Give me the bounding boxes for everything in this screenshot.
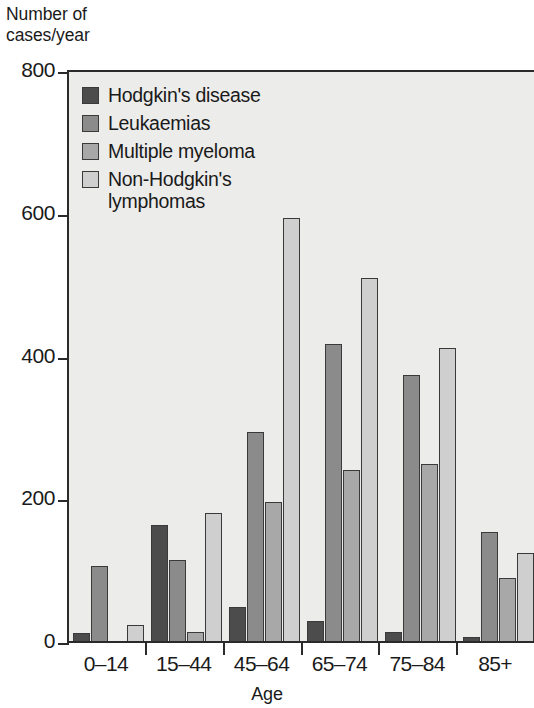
y-tick-label: 600: [21, 200, 55, 224]
legend-item: Hodgkin's disease: [82, 84, 261, 106]
y-axis-tick: [58, 358, 69, 360]
y-tick-label: 0: [44, 629, 55, 653]
bar: [205, 513, 222, 641]
bar: [403, 375, 420, 641]
x-tick-label: 45–64: [223, 652, 301, 676]
bar: [343, 470, 360, 641]
bar: [265, 502, 282, 641]
y-axis-tick: [58, 500, 69, 502]
legend-item: Non-Hodgkin's lymphomas: [82, 168, 261, 212]
bar-chart-figure: Number of cases/year 0200400600800 Hodgk…: [0, 0, 534, 708]
legend-label: Non-Hodgkin's lymphomas: [108, 168, 231, 212]
bar: [307, 621, 324, 641]
x-axis-title: Age: [0, 684, 534, 705]
legend-color-swatch: [82, 87, 99, 104]
bar: [517, 553, 534, 642]
bar: [73, 633, 90, 641]
x-axis-separator-tick: [301, 641, 303, 655]
bar: [481, 532, 498, 641]
bar: [151, 525, 168, 641]
bar: [439, 348, 456, 641]
bar: [421, 464, 438, 641]
y-axis-tick: [58, 72, 69, 74]
y-axis-title: Number of cases/year: [6, 4, 90, 46]
bar: [283, 218, 300, 641]
legend-color-swatch: [82, 171, 99, 188]
x-tick-label: 0–14: [67, 652, 145, 676]
x-axis-separator-tick: [145, 641, 147, 655]
bar: [385, 632, 402, 641]
bar: [247, 432, 264, 641]
bar: [499, 578, 516, 641]
legend: Hodgkin's diseaseLeukaemiasMultiple myel…: [82, 84, 261, 212]
legend-color-swatch: [82, 115, 99, 132]
x-tick-label: 75–84: [378, 652, 456, 676]
bar: [91, 566, 108, 641]
x-axis-separator-tick: [223, 641, 225, 655]
plot-inner: Hodgkin's diseaseLeukaemiasMultiple myel…: [69, 72, 534, 641]
x-axis-tick-labels: 0–1415–4445–6465–7475–8485+: [67, 652, 534, 682]
y-axis-tick: [58, 643, 69, 645]
legend-label: Leukaemias: [108, 112, 210, 134]
y-axis-tick-labels: 0200400600800: [0, 70, 55, 641]
bar: [325, 344, 342, 641]
bar-group: [463, 72, 534, 641]
x-tick-label: 15–44: [145, 652, 223, 676]
bar: [169, 560, 186, 641]
plot-area: Hodgkin's diseaseLeukaemiasMultiple myel…: [67, 70, 534, 641]
legend-item: Leukaemias: [82, 112, 261, 134]
legend-item: Multiple myeloma: [82, 140, 261, 162]
legend-label: Hodgkin's disease: [108, 84, 261, 106]
bar: [127, 625, 144, 641]
y-tick-label: 200: [21, 486, 55, 510]
y-tick-label: 400: [21, 343, 55, 367]
legend-color-swatch: [82, 143, 99, 160]
bar: [229, 607, 246, 641]
x-tick-label: 85+: [456, 652, 534, 676]
bar: [187, 632, 204, 641]
x-axis-separator-tick: [378, 641, 380, 655]
bar-group: [307, 72, 378, 641]
bar: [361, 278, 378, 641]
y-tick-label: 800: [21, 58, 55, 82]
x-axis-separator-tick: [456, 641, 458, 655]
x-tick-label: 65–74: [301, 652, 379, 676]
legend-label: Multiple myeloma: [108, 140, 255, 162]
bar-group: [385, 72, 456, 641]
y-axis-tick: [58, 215, 69, 217]
